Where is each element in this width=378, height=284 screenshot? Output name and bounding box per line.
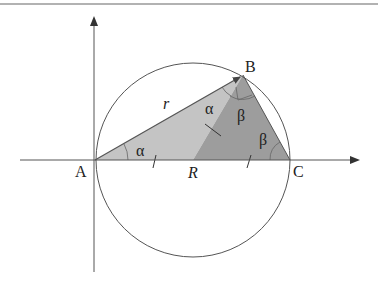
label-A: A xyxy=(75,163,87,180)
label-alpha-A: α xyxy=(136,142,145,159)
label-B: B xyxy=(245,58,256,75)
label-R: R xyxy=(187,164,198,181)
x-axis-arrow-icon xyxy=(350,156,360,164)
label-C: C xyxy=(293,163,304,180)
diagram-svg: A B C R r α α β β xyxy=(0,0,378,284)
geometry-diagram: A B C R r α α β β xyxy=(0,0,378,284)
y-axis-arrow-icon xyxy=(90,16,98,26)
label-alpha-B: α xyxy=(205,100,214,117)
label-r: r xyxy=(163,95,170,112)
label-beta-C: β xyxy=(259,131,267,149)
label-beta-B: β xyxy=(237,107,245,125)
